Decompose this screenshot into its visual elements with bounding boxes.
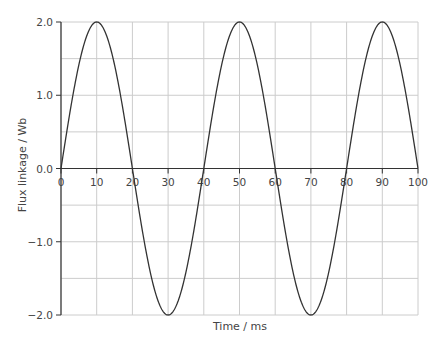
- x-tick-label: 40: [197, 176, 210, 188]
- flux-linkage-chart: 0102030405060708090100 2.01.00.0−1.0−2.0…: [0, 0, 438, 342]
- x-tick-label: 50: [233, 176, 246, 188]
- x-axis-title: Time / ms: [212, 320, 267, 333]
- x-tick-label: 70: [304, 176, 317, 188]
- x-tick-label: 0: [58, 176, 65, 188]
- x-axis-ticks: 0102030405060708090100: [58, 169, 428, 188]
- y-tick-label: −2.0: [28, 309, 54, 321]
- y-tick-label: −1.0: [28, 236, 54, 248]
- y-tick-label: 0.0: [36, 163, 53, 175]
- x-tick-label: 30: [161, 176, 174, 188]
- y-axis-title: Flux linkage / Wb: [16, 118, 29, 213]
- x-tick-label: 80: [340, 176, 353, 188]
- x-tick-label: 100: [408, 176, 428, 188]
- y-axis-ticks: 2.01.00.0−1.0−2.0: [28, 16, 62, 321]
- x-tick-label: 90: [376, 176, 389, 188]
- x-tick-label: 60: [269, 176, 282, 188]
- x-tick-label: 20: [126, 176, 139, 188]
- y-tick-label: 2.0: [36, 16, 53, 28]
- y-tick-label: 1.0: [36, 89, 53, 101]
- x-tick-label: 10: [90, 176, 103, 188]
